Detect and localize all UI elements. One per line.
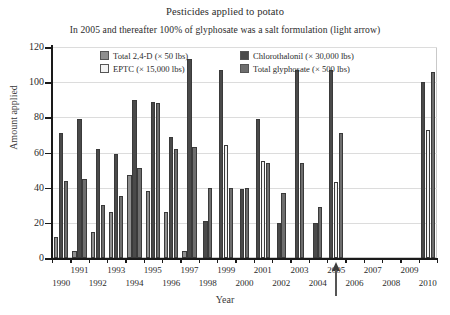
bar [169, 137, 173, 258]
bar [127, 175, 131, 258]
bar [203, 221, 207, 258]
x-tick-mark [199, 258, 200, 263]
x-tick-mark [364, 258, 365, 263]
bar [313, 223, 317, 258]
bar [164, 212, 168, 258]
bar [137, 168, 141, 258]
y-tick-label: 0 [4, 252, 44, 263]
x-tick-mark [89, 258, 90, 263]
y-tick-label: 60 [4, 147, 44, 158]
x-tick-label: 1996 [154, 278, 188, 288]
x-tick-label: 1998 [191, 278, 225, 288]
x-tick-mark [382, 258, 383, 263]
x-tick-mark [107, 258, 108, 263]
x-tick-label: 2006 [338, 278, 372, 288]
bar [119, 196, 123, 258]
legend-item-1: Chlorothalonil (× 30,000 lbs) [240, 51, 354, 61]
bar [91, 232, 95, 258]
legend-row-2: EPTC (× 15,000 lbs) Total glyphosate (× … [100, 62, 410, 75]
x-axis-line [51, 258, 438, 260]
bar [277, 223, 281, 258]
x-tick-label: 1997 [173, 265, 207, 275]
y-tick-label: 100 [4, 76, 44, 87]
legend-label: Chlorothalonil (× 30,000 lbs) [253, 51, 354, 61]
x-tick-label: 2007 [356, 265, 390, 275]
bar [54, 237, 58, 258]
legend-label: Total 2,4-D (× 50 lbs) [113, 51, 188, 61]
y-tick-label: 120 [4, 41, 44, 52]
legend-item-0: Total 2,4-D (× 50 lbs) [100, 51, 240, 61]
x-tick-label: 2010 [411, 278, 445, 288]
x-tick-label: 2009 [393, 265, 427, 275]
bar [339, 133, 343, 258]
x-tick-label: 1990 [44, 278, 78, 288]
bar [182, 251, 186, 258]
x-tick-label: 2003 [283, 265, 317, 275]
x-tick-mark [217, 258, 218, 263]
y-tick-label: 80 [4, 111, 44, 122]
bar [329, 70, 333, 258]
legend-item-3: Total glyphosate (× 500 lbs) [240, 64, 350, 74]
bar [295, 70, 299, 258]
x-tick-label: 1993 [99, 265, 133, 275]
bar [431, 72, 435, 258]
legend-label: EPTC (× 15,000 lbs) [113, 64, 185, 74]
bar [318, 207, 322, 258]
light-arrow-annotation-icon [330, 262, 342, 296]
bar [245, 188, 249, 258]
bar [300, 163, 304, 258]
y-tick-mark [45, 117, 52, 119]
x-tick-label: 1999 [209, 265, 243, 275]
x-tick-mark [180, 258, 181, 263]
bar [59, 133, 63, 258]
chart-title: Pesticides applied to potato [0, 6, 450, 17]
bar [219, 70, 223, 258]
y-tick-mark [45, 47, 52, 49]
x-tick-mark [125, 258, 126, 263]
bar [156, 103, 160, 258]
y-tick-mark [45, 258, 52, 260]
bar [77, 119, 81, 258]
chart-figure: Pesticides applied to potato In 2005 and… [0, 0, 450, 315]
x-tick-mark [327, 258, 328, 263]
legend-swatch-icon [100, 64, 109, 73]
bar [151, 102, 155, 258]
bar [224, 145, 228, 258]
y-tick-mark [45, 153, 52, 155]
y-tick-label: 40 [4, 182, 44, 193]
x-tick-label: 1994 [118, 278, 152, 288]
x-tick-label: 2000 [228, 278, 262, 288]
bar [421, 82, 425, 258]
x-tick-mark [144, 258, 145, 263]
bar [132, 100, 136, 258]
bar [266, 163, 270, 258]
bar [146, 191, 150, 258]
bar [114, 154, 118, 258]
legend-swatch-icon [100, 51, 109, 60]
x-tick-mark [437, 258, 438, 263]
x-tick-mark [290, 258, 291, 263]
bar [64, 181, 68, 258]
bar [281, 193, 285, 258]
bar [426, 130, 430, 258]
x-axis-label: Year [0, 294, 450, 305]
legend-swatch-icon [240, 51, 249, 60]
y-tick-mark [45, 82, 52, 84]
chart-subtitle: In 2005 and thereafter 100% of glyphosat… [0, 24, 450, 35]
bar [72, 251, 76, 258]
bar [192, 147, 196, 258]
x-tick-mark [272, 258, 273, 263]
bar [256, 119, 260, 258]
x-tick-label: 2002 [264, 278, 298, 288]
legend-label: Total glyphosate (× 500 lbs) [253, 64, 350, 74]
bar [82, 179, 86, 258]
bar [174, 149, 178, 258]
x-tick-mark [419, 258, 420, 263]
y-tick-mark [45, 223, 52, 225]
y-tick-mark [45, 188, 52, 190]
x-tick-mark [70, 258, 71, 263]
bar [101, 205, 105, 258]
arrow-shaft-icon [335, 270, 336, 296]
legend-swatch-icon [240, 64, 249, 73]
x-tick-label: 2001 [246, 265, 280, 275]
